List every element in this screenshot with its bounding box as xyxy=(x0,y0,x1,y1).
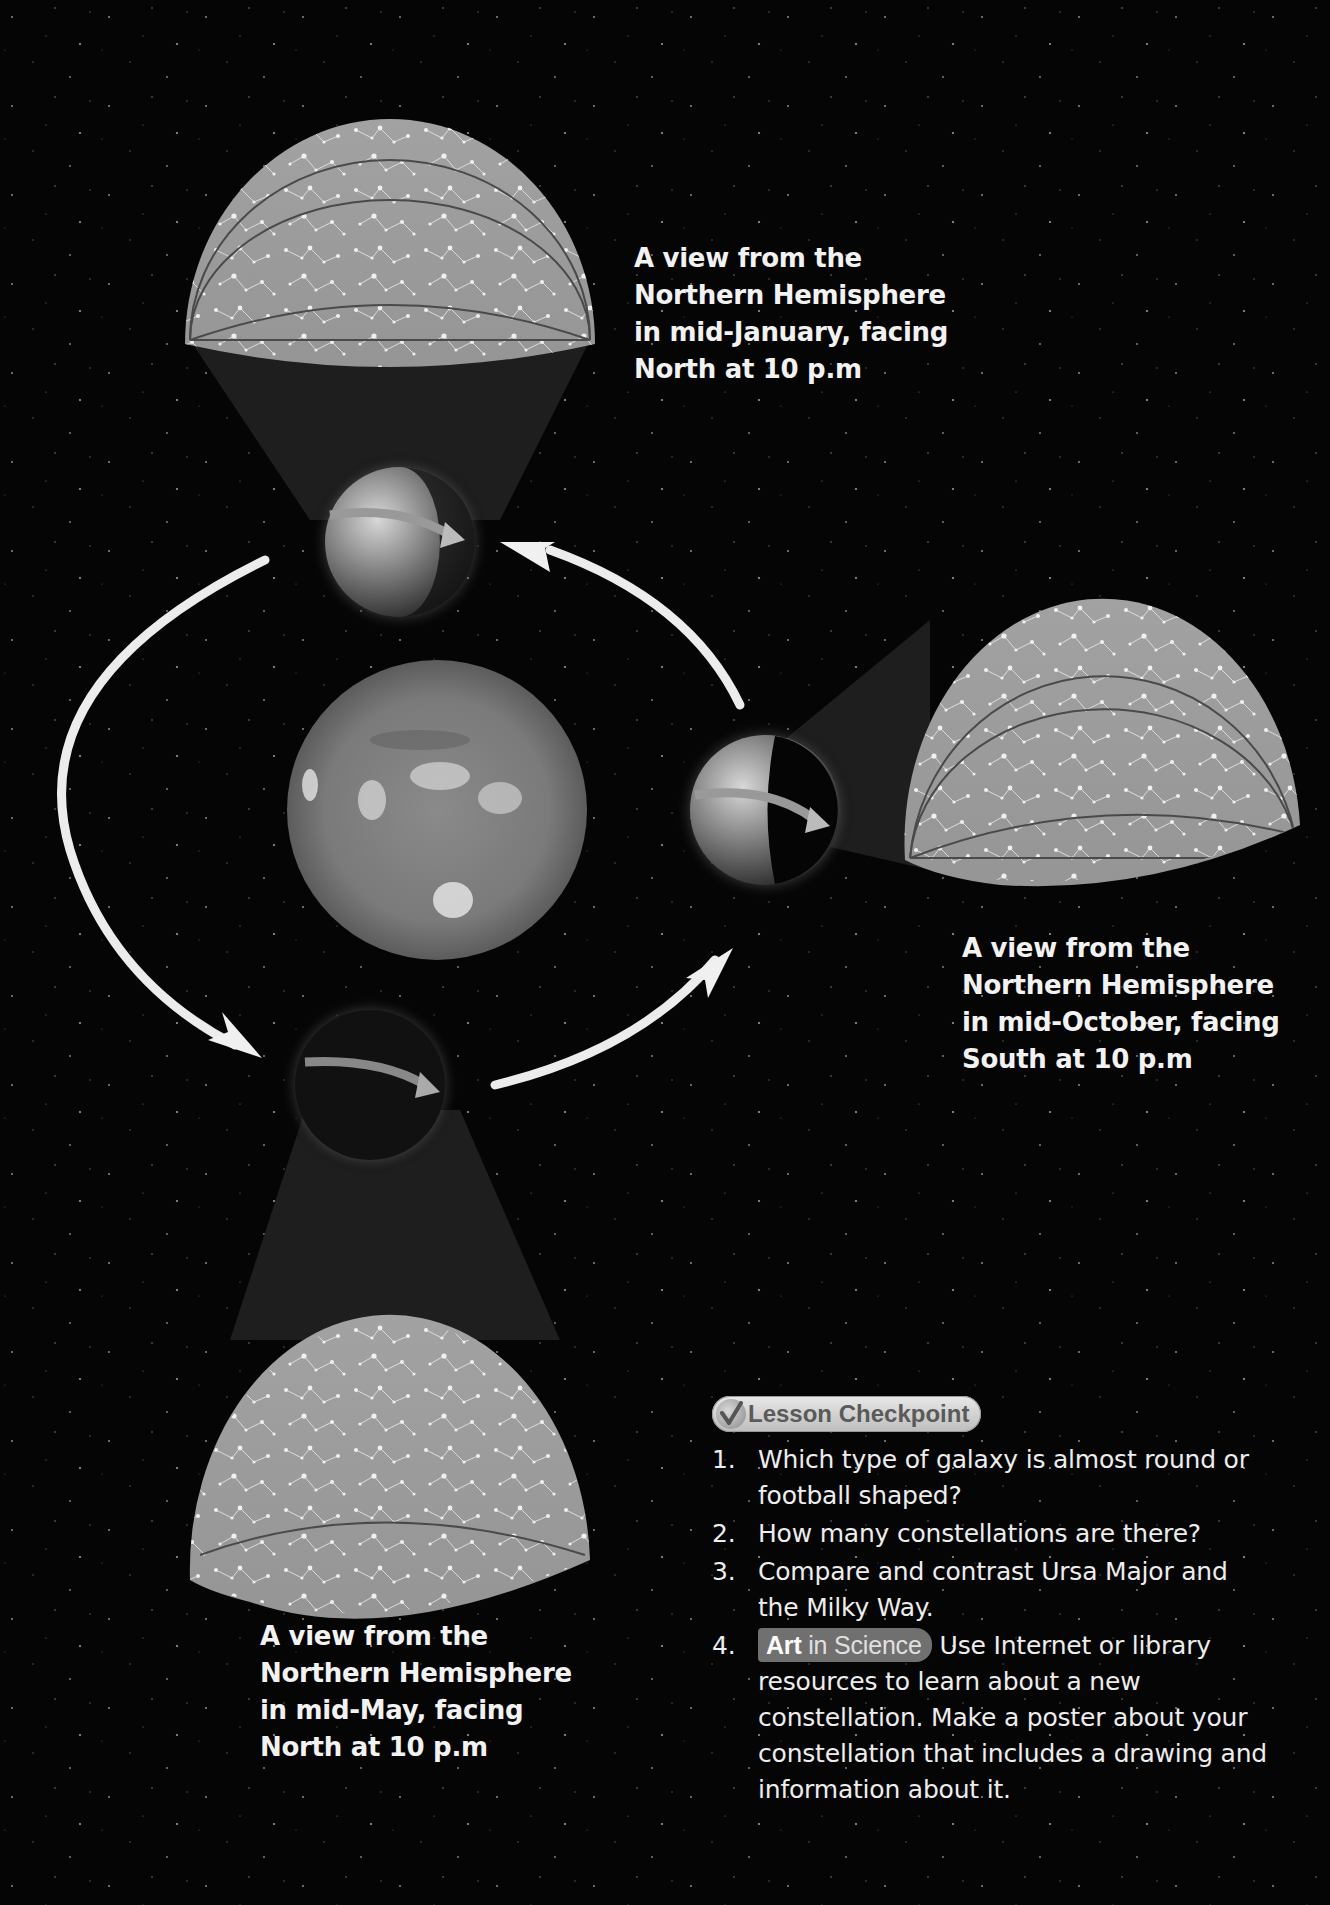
question-item: 2. How many constellations are there? xyxy=(712,1516,1272,1552)
orbit-arrow-bottom-right xyxy=(495,948,733,1085)
arrowhead-icon xyxy=(686,948,733,998)
art-in-science-tag: Art in Science xyxy=(758,1628,932,1662)
earth-january xyxy=(310,452,490,632)
sky-dome-may xyxy=(185,1300,595,1640)
question-list: 1. Which type of galaxy is almost round … xyxy=(712,1442,1272,1808)
caption-january: A view from the Northern Hemisphere in m… xyxy=(634,240,948,388)
question-item: 3. Compare and contrast Ursa Major and t… xyxy=(712,1554,1272,1626)
question-item: 4. Art in ScienceUse Internet or library… xyxy=(712,1628,1272,1808)
lesson-checkpoint: Lesson Checkpoint 1. Which type of galax… xyxy=(712,1396,1272,1810)
earth-october xyxy=(675,720,855,900)
checkpoint-title: Lesson Checkpoint xyxy=(748,1400,969,1428)
sky-dome-october xyxy=(900,599,1310,905)
checkpoint-badge: Lesson Checkpoint xyxy=(712,1396,981,1432)
caption-may: A view from the Northern Hemisphere in m… xyxy=(260,1618,572,1766)
arrowhead-icon xyxy=(500,542,555,572)
orbit-arrow-top-right xyxy=(500,542,740,705)
earth-may xyxy=(280,995,460,1175)
orbit-arrow-left xyxy=(62,560,265,1058)
sun xyxy=(287,660,587,960)
caption-october: A view from the Northern Hemisphere in m… xyxy=(962,930,1280,1078)
question-item: 1. Which type of galaxy is almost round … xyxy=(712,1442,1272,1514)
checkmark-icon xyxy=(716,1399,746,1429)
